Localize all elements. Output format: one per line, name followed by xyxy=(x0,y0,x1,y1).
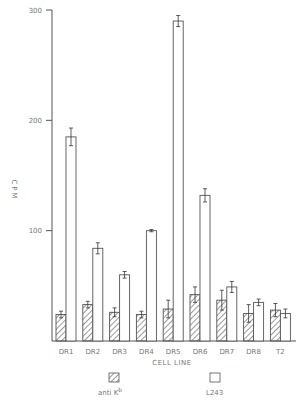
y-axis: 100200300 xyxy=(29,7,52,342)
bar-dr8-l243 xyxy=(254,302,264,341)
bars xyxy=(56,16,290,341)
bar-dr4-l243 xyxy=(146,231,156,341)
x-axis-label: CELL LINE xyxy=(152,359,191,367)
bar-dr1-l243 xyxy=(66,137,76,341)
bar-dr4-anti-kb xyxy=(136,315,146,341)
legend-swatch-hatched xyxy=(109,373,119,382)
y-tick-label: 200 xyxy=(29,117,42,125)
y-axis-label: CPM xyxy=(10,179,18,200)
legend-label-anti-kb: anti Kb xyxy=(98,386,122,397)
x-axis: DR1DR2DR3DR4DR5DR6DR7DR8T2 xyxy=(52,341,296,356)
x-tick-label: DR5 xyxy=(166,348,181,356)
x-tick-label: DR8 xyxy=(246,348,261,356)
bar-dr6-l243 xyxy=(200,195,210,341)
bar-dr1-anti-kb xyxy=(56,315,66,341)
legend: anti Kb L243 xyxy=(98,373,223,397)
x-tick-label: T2 xyxy=(275,348,285,356)
x-tick-label: DR4 xyxy=(139,348,154,356)
x-tick-label: DR3 xyxy=(112,348,127,356)
x-tick-label: DR1 xyxy=(59,348,74,356)
bar-dr2-anti-kb xyxy=(83,305,93,341)
bar-chart: 100200300 DR1DR2DR3DR4DR5DR6DR7DR8T2 CPM… xyxy=(0,0,296,401)
y-tick-label: 300 xyxy=(29,7,42,15)
bar-dr3-l243 xyxy=(120,275,130,341)
x-tick-label: DR2 xyxy=(85,348,100,356)
legend-label-l243: L243 xyxy=(206,389,223,397)
bar-dr7-l243 xyxy=(227,287,237,341)
y-tick-label: 100 xyxy=(29,227,42,235)
bar-dr5-l243 xyxy=(173,21,183,341)
bar-dr2-l243 xyxy=(93,248,103,341)
x-tick-label: DR7 xyxy=(219,348,234,356)
legend-swatch-open xyxy=(210,373,220,382)
x-tick-label: DR6 xyxy=(193,348,208,356)
